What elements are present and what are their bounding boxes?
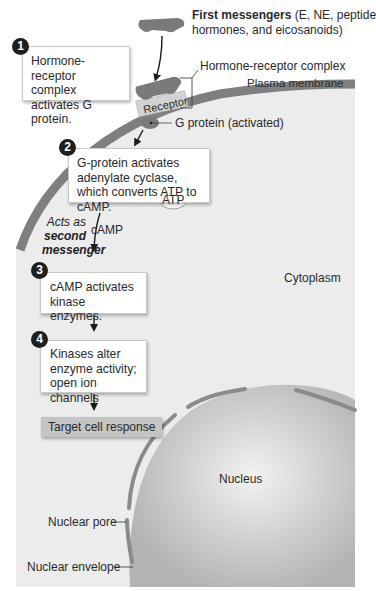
hormone-receptor-complex-label: Hormone-receptor complex xyxy=(200,59,345,73)
first-messengers-detail: (E, NE, peptide xyxy=(291,8,376,22)
first-messengers-line2: hormones, and eicosanoids) xyxy=(192,23,343,37)
g-protein-label: G protein (activated) xyxy=(175,116,284,130)
first-messengers-label: First messengers (E, NE, peptide hormone… xyxy=(192,8,376,38)
first-messengers-bold: First messengers xyxy=(192,8,291,22)
atp-label: ATP xyxy=(162,193,184,207)
second-messenger-line1: Acts as xyxy=(47,215,86,229)
step-2-badge: 2 xyxy=(59,139,76,156)
second-messenger-line3: messenger xyxy=(42,243,105,257)
cytoplasm-label: Cytoplasm xyxy=(284,271,341,285)
step-4-box: Kinases alter enzyme activity; open ion … xyxy=(40,340,147,393)
step-1-badge: 1 xyxy=(12,38,29,55)
step-4-badge: 4 xyxy=(31,331,48,348)
complex-leader-line xyxy=(192,70,198,78)
target-cell-response: Target cell response xyxy=(41,417,162,437)
step-1-box: Hormone-receptor complex activates G pro… xyxy=(22,46,130,101)
nuclear-envelope-label: Nuclear envelope xyxy=(27,560,120,574)
camp-label: cAMP xyxy=(91,223,123,237)
nuclear-pore-label: Nuclear pore xyxy=(48,515,117,529)
second-messenger-line2: second xyxy=(44,229,86,243)
first-messenger-molecule xyxy=(138,18,184,32)
nucleus-label: Nucleus xyxy=(219,472,262,486)
step-3-box: cAMP activates kinase enzymes. xyxy=(40,272,147,314)
step-2-box: G-protein activates adenylate cyclase, w… xyxy=(68,148,210,203)
second-messenger-label: Acts as second messenger xyxy=(42,215,86,257)
plasma-membrane-label: Plasma membrane xyxy=(247,76,344,90)
arrow-to-receptor xyxy=(156,36,162,78)
step-3-badge: 3 xyxy=(31,262,48,279)
